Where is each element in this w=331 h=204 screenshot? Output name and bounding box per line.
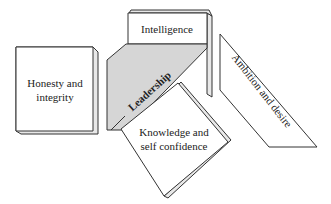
knowledge-label-line2: self confidence (141, 140, 208, 152)
leadership-diagram: Honesty and integrity Intelligence Leade… (0, 0, 331, 204)
honesty-box: Honesty and integrity (16, 47, 98, 134)
honesty-label-line1: Honesty and (27, 77, 83, 89)
knowledge-label-line1: Knowledge and (139, 126, 209, 138)
ambition-wedge: Ambition and desire (220, 34, 317, 147)
intelligence-label: Intelligence (141, 23, 193, 35)
honesty-label-line2: integrity (36, 91, 74, 103)
